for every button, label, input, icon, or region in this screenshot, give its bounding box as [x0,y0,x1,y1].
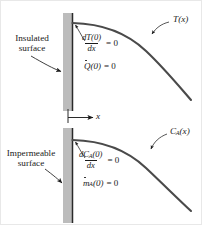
mass-rate-rhs: = 0 [106,178,118,188]
curve-leader-line-mass [151,134,167,149]
heat-flux-gradient-equation: dT(0) dx = 0 [80,33,118,53]
derivative-fraction-heat: dT(0) dx [80,33,103,53]
derivative-numerator-mass: dCA(0) [77,150,104,160]
axis-label-x: x [96,112,100,122]
mass-rate-equation: mA(0) = 0 [83,178,118,188]
temperature-curve-label-arg: (x) [178,14,188,24]
derivative-rhs-heat: = 0 [106,38,118,48]
impermeable-surface-label-line2: surface [1,159,61,169]
derivative-numerator-arg-mass: (0) [92,149,102,159]
concentration-curve-label-arg: (x) [180,126,190,136]
derivative-denominator-mass: dx [85,160,97,171]
insulated-surface-label-line2: surface [3,44,61,54]
boundary-condition-figure: Insulated surface T(x) dT(0) dx = 0 Q(0)… [0,0,202,225]
heat-rate-symbol: Q [84,61,91,71]
heat-rate-equation: Q(0) = 0 [84,61,116,71]
heat-rate-arg: (0) [91,61,102,71]
derivative-fraction-mass: dCA(0) dx [77,150,104,171]
insulated-surface-label: Insulated surface [3,34,61,53]
mass-rate-arg: (0) [93,178,104,188]
curve-leader-line-heat [152,22,169,34]
derivative-rhs-mass: = 0 [107,155,119,165]
mass-rate-symbol: m [83,178,90,188]
derivative-numerator-base-mass: dC [79,149,89,159]
insulated-surface-arrow [31,56,61,72]
impermeable-surface-label: Impermeable surface [1,149,61,168]
impermeable-surface-arrow [45,169,62,183]
temperature-curve-label: T(x) [173,15,188,25]
concentration-curve-label: CA(x) [170,127,190,137]
derivative-numerator-heat: dT(0) [80,33,103,43]
derivative-denominator-heat: dx [85,43,97,54]
mass-flux-gradient-equation: dCA(0) dx = 0 [77,150,119,171]
heat-rate-rhs: = 0 [104,61,116,71]
